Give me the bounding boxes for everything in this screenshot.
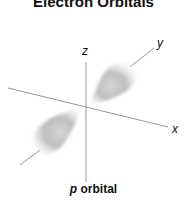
upper-lobe xyxy=(86,62,136,106)
y-axis-back xyxy=(20,150,40,165)
y-axis-front xyxy=(130,48,154,67)
x-axis-label: x xyxy=(172,122,178,136)
lower-lobe xyxy=(33,106,86,154)
z-axis-label: z xyxy=(82,44,88,58)
orbital-diagram xyxy=(0,0,187,207)
y-axis-label: y xyxy=(157,36,163,50)
caption-text: orbital xyxy=(77,182,117,196)
orbital-caption: p orbital xyxy=(0,182,187,196)
x-axis xyxy=(8,88,168,127)
